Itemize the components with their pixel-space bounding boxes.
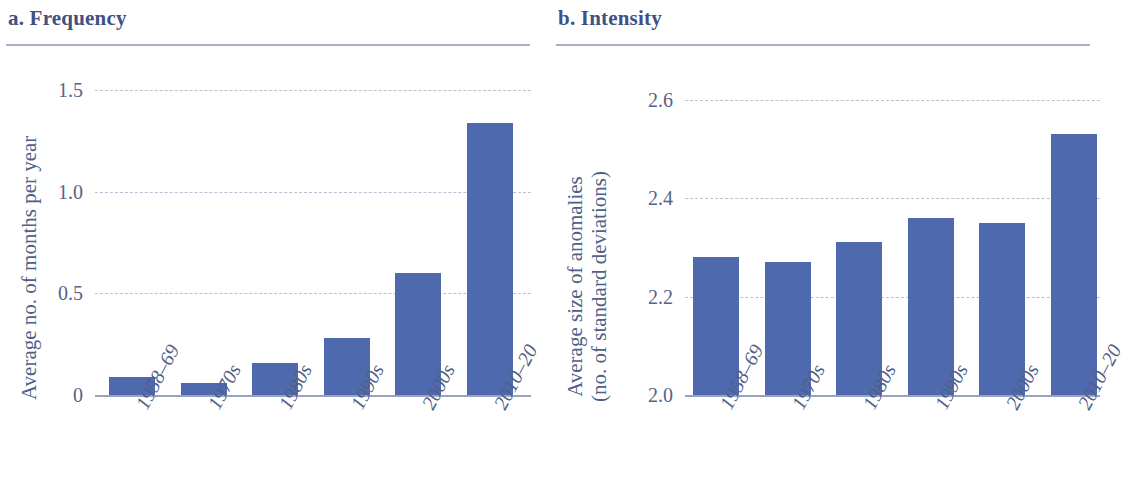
panel-title-rule-a (6, 44, 530, 46)
x-axis-line-b (685, 395, 1100, 397)
y-axis-title-a: Average no. of months per year (18, 136, 42, 400)
bar-b-1990s (908, 218, 954, 395)
y-tick-label-a-1.0: 1.0 (23, 182, 83, 202)
y-tick-label-b-2.6: 2.6 (613, 90, 673, 110)
panel-title-rule-b (556, 44, 1090, 46)
plot-area-intensity: 2.02.22.42.6 1958–691970s1980s1990s2000s… (685, 70, 1100, 395)
panel-intensity: b. Intensity Average size of anomalies (… (550, 0, 1100, 500)
panel-title-a: a. Frequency (8, 6, 127, 31)
y-axis-title-b-line-2: (no. of standard deviations) (588, 171, 612, 402)
bar-a-201020 (467, 123, 513, 395)
y-tick-label-a-0.5: 0.5 (23, 283, 83, 303)
bar-b-201020 (1051, 134, 1097, 395)
y-axis-title-a-line-1: Average no. of months per year (18, 136, 42, 400)
y-tick-label-b-2.4: 2.4 (613, 188, 673, 208)
y-tick-label-a-0: 0 (23, 385, 83, 405)
panel-frequency: a. Frequency Average no. of months per y… (0, 0, 550, 500)
y-tick-label-b-2.0: 2.0 (613, 385, 673, 405)
panel-title-b: b. Intensity (558, 6, 662, 31)
y-tick-label-b-2.2: 2.2 (613, 287, 673, 307)
y-axis-title-b-line-1: Average size of anomalies (564, 171, 588, 402)
y-axis-title-b: Average size of anomalies (no. of standa… (564, 171, 611, 402)
x-axis-line-a (95, 395, 531, 397)
y-tick-label-a-1.5: 1.5 (23, 80, 83, 100)
plot-area-frequency: 00.51.01.5 1958–691970s1980s1990s2000s20… (95, 70, 531, 395)
